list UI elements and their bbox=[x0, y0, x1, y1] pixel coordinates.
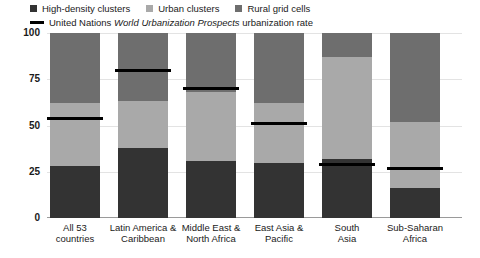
segment-rural-grid-cells bbox=[390, 33, 440, 122]
y-tick-label: 25 bbox=[6, 167, 40, 177]
segment-high-density-clusters bbox=[322, 159, 372, 218]
square-swatch-icon bbox=[30, 5, 37, 12]
bar-group bbox=[186, 33, 236, 218]
legend-label: Urban clusters bbox=[158, 4, 219, 14]
segment-urban-clusters bbox=[50, 103, 100, 166]
legend-item-urban-clusters: Urban clusters bbox=[146, 4, 219, 14]
un-urbanization-rate-marker bbox=[47, 117, 103, 120]
segment-urban-clusters bbox=[322, 57, 372, 159]
un-urbanization-rate-marker bbox=[319, 163, 375, 166]
segment-high-density-clusters bbox=[254, 163, 304, 219]
legend-label-composite: United Nations World Urbanization Prospe… bbox=[49, 18, 313, 28]
square-swatch-icon bbox=[235, 5, 242, 12]
segment-rural-grid-cells bbox=[322, 33, 372, 57]
bar-group bbox=[322, 33, 372, 218]
bar-group bbox=[118, 33, 168, 218]
x-axis-label-line1: Sub-Saharan bbox=[372, 222, 458, 233]
segment-rural-grid-cells bbox=[254, 33, 304, 103]
segment-high-density-clusters bbox=[390, 188, 440, 218]
legend-label: Rural grid cells bbox=[247, 4, 310, 14]
y-tick-label: 50 bbox=[6, 121, 40, 131]
legend-row-series: High-density clusters Urban clusters Rur… bbox=[30, 2, 470, 15]
legend-label-prefix: United Nations bbox=[49, 17, 114, 28]
square-swatch-icon bbox=[146, 5, 153, 12]
legend-label: High-density clusters bbox=[42, 4, 130, 14]
chart-legend: High-density clusters Urban clusters Rur… bbox=[30, 2, 470, 29]
segment-high-density-clusters bbox=[118, 148, 168, 218]
y-tick-label: 75 bbox=[6, 74, 40, 84]
segment-rural-grid-cells bbox=[118, 33, 168, 101]
legend-row-overlay-line: United Nations World Urbanization Prospe… bbox=[30, 16, 470, 29]
un-urbanization-rate-marker bbox=[183, 87, 239, 90]
un-urbanization-rate-marker bbox=[251, 122, 307, 125]
segment-rural-grid-cells bbox=[186, 33, 236, 92]
segment-high-density-clusters bbox=[50, 166, 100, 218]
segment-urban-clusters bbox=[118, 101, 168, 147]
segment-urban-clusters bbox=[390, 122, 440, 189]
legend-item-high-density-clusters: High-density clusters bbox=[30, 4, 130, 14]
segment-high-density-clusters bbox=[186, 161, 236, 218]
bar-group bbox=[390, 33, 440, 218]
segment-urban-clusters bbox=[186, 92, 236, 160]
line-swatch-icon bbox=[30, 21, 44, 24]
legend-item-rural-grid-cells: Rural grid cells bbox=[235, 4, 310, 14]
segment-urban-clusters bbox=[254, 103, 304, 162]
segment-rural-grid-cells bbox=[50, 33, 100, 103]
bar-group bbox=[50, 33, 100, 218]
legend-label-suffix: urbanization rate bbox=[240, 17, 313, 28]
stacked-bar-chart: High-density clusters Urban clusters Rur… bbox=[0, 0, 480, 258]
bar-group bbox=[254, 33, 304, 218]
un-urbanization-rate-marker bbox=[387, 167, 443, 170]
legend-item-un-urbanization-rate: United Nations World Urbanization Prospe… bbox=[30, 18, 313, 28]
y-tick-label: 100 bbox=[6, 28, 40, 38]
x-axis-label: Sub-SaharanAfrica bbox=[372, 222, 458, 244]
legend-label-italic: World Urbanization Prospects bbox=[114, 17, 240, 28]
un-urbanization-rate-marker bbox=[115, 69, 171, 72]
y-axis: 100 75 50 25 0 bbox=[0, 33, 40, 218]
x-axis-label-line2: Africa bbox=[372, 233, 458, 244]
